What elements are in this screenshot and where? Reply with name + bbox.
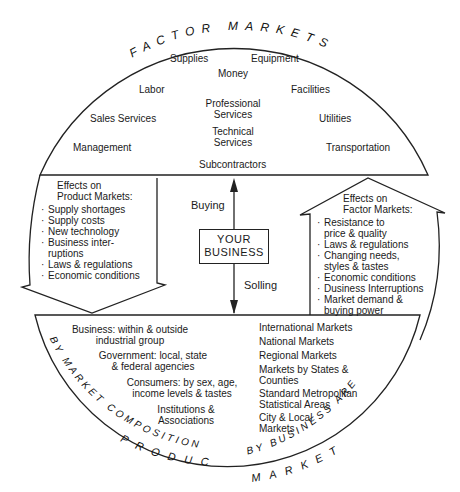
- factor-sales-services: Sales Services: [90, 113, 156, 124]
- list-item: ·Market demand &: [317, 294, 424, 305]
- factor-supplies: Supplies: [170, 53, 208, 64]
- svg-text:FACTOR MARKETS: FACTOR MARKETS: [127, 19, 337, 60]
- list-item: ·Supply shortages: [41, 204, 140, 215]
- list-item-continued: price & quality: [317, 228, 424, 239]
- effects-product-title: Effects on Product Markets:: [41, 180, 140, 202]
- area-international: International Markets: [259, 322, 357, 333]
- area-regional: Regional Markets: [259, 350, 357, 361]
- factor-equipment: Equipment: [251, 53, 299, 64]
- area-smsa: Standard Metropolitan Statistical Areas: [259, 388, 357, 410]
- effects-product-panel: Effects on Product Markets: ·Supply shor…: [41, 180, 140, 281]
- factor-utilities: Utilities: [319, 113, 351, 124]
- buying-label: Buying: [191, 200, 225, 211]
- business-area-list: International Markets National Markets R…: [259, 322, 357, 434]
- list-item: ·Economic conditions: [41, 270, 140, 281]
- factor-labor: Labor: [139, 84, 165, 95]
- list-item: ·New technology: [41, 226, 140, 237]
- composition-government: Government: local, state & federal agenc…: [88, 350, 218, 372]
- list-item-continued: buying power: [317, 305, 424, 316]
- list-item: ·Changing needs,: [317, 250, 424, 261]
- effects-product-list: ·Supply shortages ·Supply costs ·New tec…: [41, 204, 140, 281]
- list-item: ·Business inter-: [41, 237, 140, 248]
- list-item: ·Supply costs: [41, 215, 140, 226]
- effects-factor-title: Effects on Factor Markets:: [317, 193, 424, 215]
- composition-institutions: Institutions & Associations: [150, 404, 222, 426]
- composition-consumers: Consumers: by sex, age, income levels & …: [118, 377, 246, 399]
- selling-label: Solling: [244, 280, 277, 291]
- composition-business: Business: within & outside industrial gr…: [60, 324, 200, 346]
- list-item-continued: styles & tastes: [317, 261, 424, 272]
- factor-transportation: Transportation: [326, 142, 390, 153]
- list-item: ·Laws & regulations: [41, 259, 140, 270]
- selling-arrowhead: [230, 300, 238, 314]
- factor-professional-services: Professional Services: [196, 98, 270, 120]
- factor-management: Management: [73, 142, 131, 153]
- effects-factor-panel: Effects on Factor Markets: ·Resistance t…: [317, 193, 424, 316]
- list-item: ·Economic conditions: [317, 272, 424, 283]
- list-item: ·Resistance to: [317, 217, 424, 228]
- list-item-continued: ruptions: [41, 248, 140, 259]
- your-business-box: YOUR BUSINESS: [199, 229, 269, 264]
- factor-facilities: Facilities: [291, 84, 330, 95]
- area-states-counties: Markets by States & Counties: [259, 364, 357, 386]
- list-item: ·Dusiness Interruptions: [317, 283, 424, 294]
- area-national: National Markets: [259, 336, 357, 347]
- list-item: ·Laws & regulations: [317, 239, 424, 250]
- factor-money: Money: [218, 68, 248, 79]
- effects-factor-list: ·Resistance to price & quality ·Laws & r…: [317, 217, 424, 316]
- area-city-local: City & Local Markets: [259, 412, 357, 434]
- factor-subcontractors: Subcontractors: [199, 159, 266, 170]
- buying-arrowhead: [230, 178, 238, 192]
- factor-technical-services: Technical Services: [196, 126, 270, 148]
- factor-markets-title: FACTOR MARKETS: [127, 19, 337, 60]
